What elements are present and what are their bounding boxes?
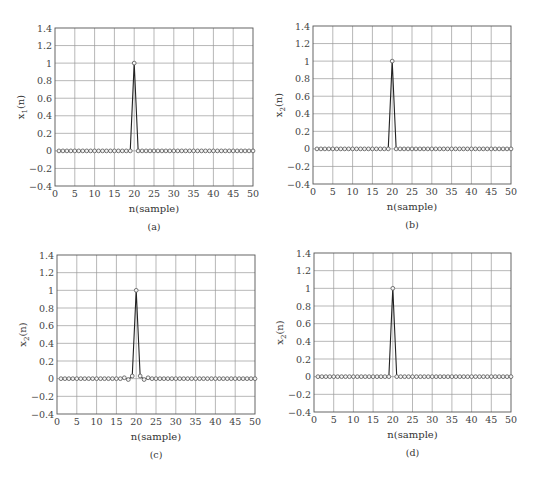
data-point: [359, 375, 363, 379]
data-point: [146, 376, 150, 380]
x-tick-label: 15: [110, 416, 122, 427]
data-point: [182, 377, 186, 381]
data-point: [343, 147, 347, 151]
data-point: [493, 375, 497, 379]
data-point: [249, 377, 253, 381]
data-point: [144, 149, 148, 153]
data-point: [336, 375, 340, 379]
data-point: [176, 149, 180, 153]
signal-line: [59, 63, 253, 151]
data-point: [391, 286, 395, 290]
x-tick-label: 50: [249, 416, 261, 427]
y-tick-label: 0.2: [37, 128, 52, 139]
data-point: [130, 374, 134, 378]
data-point: [324, 375, 328, 379]
data-point: [371, 375, 375, 379]
data-point: [505, 147, 509, 151]
data-point: [355, 375, 359, 379]
data-point: [148, 149, 152, 153]
data-point: [390, 59, 394, 63]
data-point: [231, 149, 235, 153]
x-axis-label: n(sample): [129, 203, 179, 214]
panel-caption: (d): [406, 447, 420, 458]
data-point: [497, 147, 501, 151]
y-tick-label: 0.6: [39, 320, 54, 331]
data-point: [202, 377, 206, 381]
y-tick-label: 0.2: [39, 356, 54, 367]
x-tick-label: 20: [128, 188, 140, 199]
signal-line: [317, 61, 511, 149]
y-tick-label: 1.4: [37, 23, 52, 34]
data-point: [474, 375, 478, 379]
x-tick-label: 5: [74, 416, 80, 427]
data-point: [505, 375, 509, 379]
data-point: [142, 378, 146, 382]
data-point: [237, 377, 241, 381]
data-point: [233, 377, 237, 381]
data-point: [331, 147, 335, 151]
x-tick-label: 30: [426, 414, 438, 425]
panel-caption: (c): [150, 449, 163, 460]
data-point: [215, 149, 219, 153]
data-point: [438, 147, 442, 151]
x-tick-label: 35: [446, 186, 458, 197]
y-tick-label: 0.6: [296, 318, 311, 329]
data-point: [315, 147, 319, 151]
data-point: [378, 147, 382, 151]
data-point: [374, 147, 378, 151]
data-point: [184, 149, 188, 153]
data-point: [446, 147, 450, 151]
data-point: [61, 149, 65, 153]
data-point: [458, 147, 462, 151]
data-point: [225, 377, 229, 381]
y-axis-label-tail: (n): [17, 322, 28, 336]
data-point: [434, 375, 438, 379]
y-tick-label: 0.8: [39, 303, 54, 314]
data-point: [339, 147, 343, 151]
data-point: [103, 377, 107, 381]
data-point: [382, 147, 386, 151]
data-point: [152, 149, 156, 153]
data-point: [485, 147, 489, 151]
data-point: [85, 149, 89, 153]
data-point: [415, 375, 419, 379]
y-axis-label: x2(n): [273, 93, 287, 117]
data-point: [132, 61, 136, 65]
y-tick-label: −0.4: [31, 409, 54, 420]
y-tick-label: 1.2: [295, 38, 310, 49]
y-tick-label: 0: [305, 371, 311, 382]
data-point: [375, 375, 379, 379]
x-tick-label: 45: [227, 188, 239, 199]
data-point: [493, 147, 497, 151]
y-tick-label: 0: [304, 143, 310, 154]
data-point: [122, 376, 126, 380]
panel-caption: (b): [405, 219, 419, 230]
data-point: [489, 147, 493, 151]
x-tick-label: 25: [406, 186, 418, 197]
data-point: [178, 377, 182, 381]
data-point: [394, 147, 398, 151]
y-tick-label: −0.4: [287, 179, 310, 190]
data-point: [59, 377, 63, 381]
data-point: [229, 377, 233, 381]
data-point: [186, 377, 190, 381]
data-point: [387, 375, 391, 379]
data-point: [363, 147, 367, 151]
data-point: [206, 377, 210, 381]
y-tick-label: 0.8: [37, 75, 52, 86]
data-point: [99, 377, 103, 381]
y-tick-label: 1: [304, 56, 310, 67]
data-point: [319, 147, 323, 151]
y-tick-label: 1: [46, 58, 52, 69]
data-point: [418, 375, 422, 379]
x-tick-label: 15: [367, 414, 379, 425]
data-point: [442, 375, 446, 379]
data-point: [481, 147, 485, 151]
data-point: [383, 375, 387, 379]
data-point: [97, 149, 101, 153]
data-point: [411, 375, 415, 379]
data-point: [355, 147, 359, 151]
data-point: [402, 147, 406, 151]
x-tick-label: 25: [406, 414, 418, 425]
data-point: [65, 149, 69, 153]
